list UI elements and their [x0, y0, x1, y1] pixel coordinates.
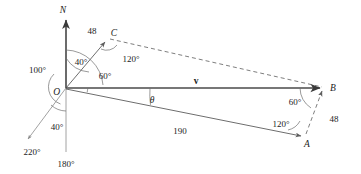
arc-60-origin [66, 50, 103, 85]
angle-60-at-b-label: 60° [289, 97, 302, 107]
angle-120-at-a-label: 120° [272, 119, 290, 129]
angle-40-lower-label: 40° [51, 122, 64, 132]
dashed-ab [306, 91, 322, 134]
point-c-label: C [111, 28, 118, 38]
arc-60-at-b [300, 88, 311, 108]
point-a-label: A [303, 139, 310, 149]
arc-120-at-c [101, 45, 117, 50]
length-oa-label: 190 [173, 126, 187, 136]
bearing-100-label: 100° [29, 65, 47, 75]
length-ab-label: 48 [330, 114, 340, 124]
origin-label: O [53, 87, 60, 97]
diagram-canvas: N O C B A 100° 40° 60° 120° 48 v θ 190 6… [0, 0, 361, 174]
resultant-vector-label: v [194, 76, 199, 86]
bearing-220-label: 220° [23, 147, 41, 157]
length-oc-label: 48 [88, 26, 98, 36]
angle-120-at-c-label: 120° [122, 54, 140, 64]
north-label: N [59, 5, 67, 15]
bearing-180-label: 180° [57, 159, 75, 169]
point-b-label: B [330, 83, 336, 93]
angle-60-origin-label: 60° [99, 71, 112, 81]
angle-40-upper-label: 40° [75, 57, 88, 67]
theta-label: θ [150, 95, 155, 105]
arc-40-lower [51, 105, 66, 111]
dashed-cb [110, 39, 322, 87]
arc-120-at-a [288, 121, 300, 130]
vector-diagram-figure: N O C B A 100° 40° 60° 120° 48 v θ 190 6… [0, 0, 361, 174]
